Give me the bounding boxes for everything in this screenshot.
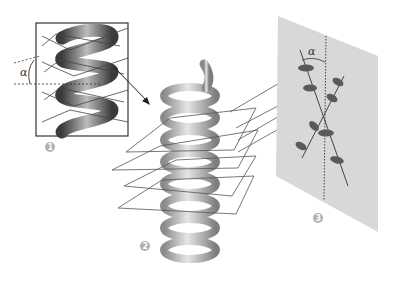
- step-2-badge: 2: [140, 241, 150, 251]
- svg-text:1: 1: [48, 143, 54, 152]
- helix-diffraction-diagram: α 1: [0, 0, 398, 286]
- alpha-label-inset: α: [20, 66, 28, 79]
- detector-film: α: [276, 16, 378, 232]
- step-3-badge: 3: [313, 213, 323, 223]
- inset-panel: α 1: [14, 23, 128, 152]
- svg-text:3: 3: [316, 214, 322, 223]
- svg-text:2: 2: [143, 242, 149, 251]
- step-1-badge: 1: [45, 142, 55, 152]
- main-helix: [164, 64, 216, 259]
- alpha-label-film: α: [308, 45, 316, 58]
